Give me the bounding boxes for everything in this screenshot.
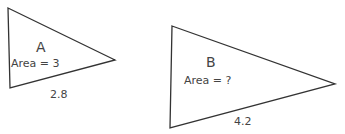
- triangle-a: [8, 8, 115, 88]
- triangle-a-name: A: [36, 39, 46, 55]
- triangle-b-area: Area = ?: [184, 74, 231, 87]
- triangle-b-name: B: [206, 54, 216, 70]
- triangle-a-base: 2.8: [50, 88, 68, 101]
- triangle-a-area: Area = 3: [11, 57, 60, 70]
- triangle-b-base: 4.2: [234, 115, 252, 128]
